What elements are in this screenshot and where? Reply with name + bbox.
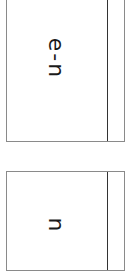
tab-label-container: n <box>7 172 107 270</box>
tab-label: n <box>44 217 69 233</box>
vertical-tab-2[interactable]: n <box>6 171 125 271</box>
tab-divider <box>107 0 108 141</box>
tab-label: e-n <box>44 38 69 79</box>
tab-divider <box>107 172 108 270</box>
vertical-tab-1[interactable]: e-n <box>6 0 125 142</box>
tab-label-container: e-n <box>7 0 107 141</box>
